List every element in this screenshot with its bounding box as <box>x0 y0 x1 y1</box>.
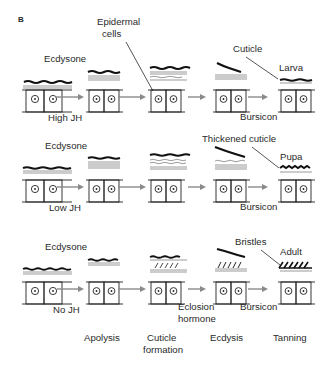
callout-cuticle: Cuticle <box>233 43 262 54</box>
cell-block <box>278 262 315 304</box>
pointer-line-cuticle <box>246 57 278 79</box>
diagram-canvas: B Ecdysone Epidermal cells <box>0 0 327 370</box>
cell-block <box>148 154 190 202</box>
jh-label-none: No JH <box>53 304 80 315</box>
row-pupa: Ecdysone <box>22 133 315 213</box>
shed-cuticle <box>217 249 245 257</box>
arrow-icon <box>200 184 206 190</box>
epicuticle-layer <box>24 81 72 83</box>
bristles-forming <box>155 263 178 268</box>
jh-label-high: High JH <box>48 112 82 123</box>
arrow-icon <box>140 94 146 100</box>
phase-label-ecdysis: Ecdysis <box>210 332 243 343</box>
callout-epidermal-cells-line1: Epidermal <box>97 16 140 27</box>
cell-block <box>86 259 123 304</box>
panel-label: B <box>18 15 24 24</box>
pointer-line-epidermal <box>126 42 153 91</box>
pointer-line-bristles <box>261 250 280 265</box>
pointer-line-cuticle <box>252 147 279 168</box>
hormone-label-eclosion-line2: hormone <box>178 313 216 324</box>
callout-thickened-cuticle: Thickened cuticle <box>202 133 276 144</box>
stage-label-pupa: Pupa <box>280 151 303 162</box>
arrow-icon <box>262 286 268 292</box>
cell-block <box>278 79 315 112</box>
phase-label-cuticle-formation-line2: formation <box>143 344 183 355</box>
callout-bristles: Bristles <box>235 236 267 247</box>
bristles <box>218 262 241 268</box>
arrow-icon <box>140 286 146 292</box>
phase-label-apolysis: Apolysis <box>84 332 120 343</box>
hormone-label-bursicon: Bursicon <box>240 301 277 312</box>
arrow-icon <box>78 184 84 190</box>
hormone-label-ecdysone: Ecdysone <box>45 140 87 151</box>
arrow-icon <box>262 94 268 100</box>
hormone-label-bursicon: Bursicon <box>240 111 277 122</box>
shed-cuticle <box>217 63 241 72</box>
hormone-label-ecdysone: Ecdysone <box>44 53 86 64</box>
molting-diagram: B Ecdysone Epidermal cells <box>0 0 327 370</box>
hormone-label-ecdysone: Ecdysone <box>45 241 87 252</box>
phase-label-cuticle-formation-line1: Cuticle <box>147 332 176 343</box>
cell-block <box>213 249 250 304</box>
row-larva: Ecdysone Epidermal cells <box>22 16 315 123</box>
hormone-label-bursicon: Bursicon <box>240 201 277 212</box>
cell-block <box>148 67 190 112</box>
cell-block <box>22 167 72 202</box>
row-adult: Ecdysone <box>22 236 315 324</box>
cell-block <box>86 71 123 112</box>
arrow-icon <box>78 286 84 292</box>
hormone-label-eclosion-line1: Eclosion <box>178 301 214 312</box>
jh-label-low: Low JH <box>49 202 81 213</box>
stage-label-adult: Adult <box>280 246 302 257</box>
stage-label-larva: Larva <box>279 62 304 73</box>
phase-label-tanning: Tanning <box>273 332 307 343</box>
cell-block <box>213 147 250 202</box>
cell-block <box>278 166 315 202</box>
cell-block <box>148 256 187 304</box>
shed-cuticle <box>215 147 245 157</box>
phase-labels: Apolysis Cuticle formation Ecdysis Tanni… <box>84 332 307 355</box>
arrow-icon <box>200 94 206 100</box>
bristles-tanned <box>279 262 308 268</box>
arrow-icon <box>200 286 206 292</box>
arrow-icon <box>78 94 84 100</box>
arrow-icon <box>140 184 146 190</box>
cell-block <box>22 268 72 304</box>
arrow-icon <box>262 184 268 190</box>
cell-block <box>213 63 250 112</box>
callout-epidermal-cells-line2: cells <box>102 28 121 39</box>
cell-block <box>86 157 123 202</box>
